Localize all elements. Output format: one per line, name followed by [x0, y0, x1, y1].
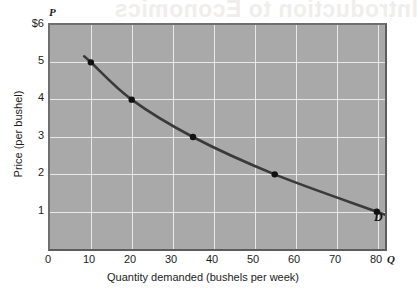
data-point-10-5 — [88, 59, 94, 65]
data-point-20-4 — [129, 96, 135, 102]
x-tick-80: 80 — [356, 253, 396, 265]
data-point-55-2 — [272, 171, 278, 177]
x-tick-0: 0 — [28, 253, 68, 265]
x-tick-20: 20 — [110, 253, 150, 265]
data-point-35-3 — [190, 134, 196, 140]
x-tick-70: 70 — [315, 253, 355, 265]
x-axis-ticks: 0 10 20 30 40 50 60 70 80 — [0, 253, 406, 269]
plot-area — [48, 23, 387, 251]
plot-inner — [50, 25, 385, 249]
x-tick-50: 50 — [233, 253, 273, 265]
demand-curve-path — [84, 56, 387, 216]
background-bleed-text: Introduction to Economics — [118, 0, 418, 23]
demand-curve-label: D — [374, 210, 383, 225]
x-tick-30: 30 — [151, 253, 191, 265]
y-tick-6: $6 — [4, 18, 44, 29]
x-tick-10: 10 — [69, 253, 109, 265]
x-tick-60: 60 — [274, 253, 314, 265]
y-tick-5: 5 — [4, 55, 44, 66]
p-axis-letter: P — [49, 6, 56, 18]
y-tick-1: 1 — [4, 205, 44, 216]
y-tick-3: 3 — [4, 130, 44, 141]
y-tick-2: 2 — [4, 167, 44, 178]
demand-curve-svg — [50, 25, 385, 249]
y-axis-title: Price (per bushel) — [12, 54, 24, 214]
y-tick-4: 4 — [4, 92, 44, 103]
demand-data-points — [88, 59, 380, 215]
x-axis-title: Quantity demanded (bushels per week) — [0, 271, 406, 283]
x-tick-40: 40 — [192, 253, 232, 265]
